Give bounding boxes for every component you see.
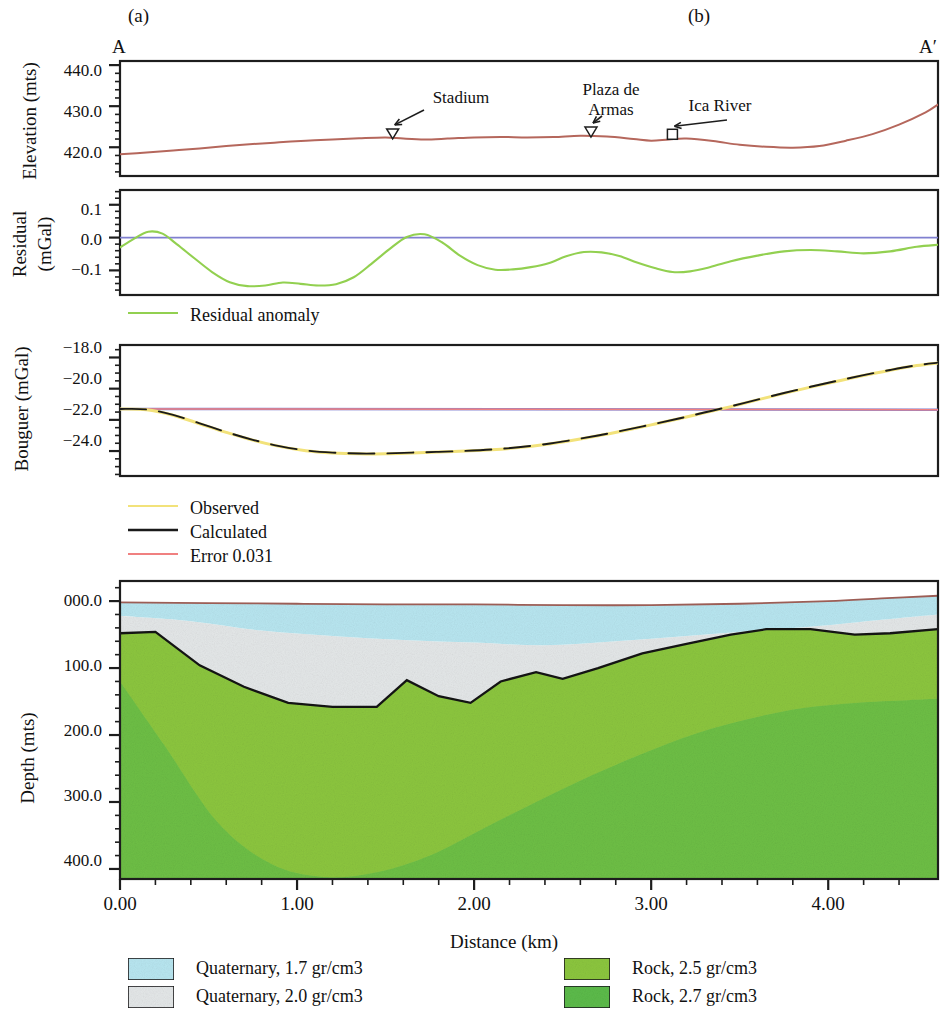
- bouguer-tick-neg18: −18.0: [28, 338, 102, 358]
- profile-end-label: A′: [919, 36, 937, 58]
- elevation-axis-label: Elevation (mts): [19, 46, 41, 196]
- xaxis-tick-2: 2.00: [444, 893, 504, 915]
- bouguer-legend-calculated-label: Calculated: [190, 522, 267, 543]
- gravity-profile-figure: [0, 0, 950, 1014]
- bouguer-legend-error-label: Error 0.031: [190, 546, 273, 567]
- subpanel-label-b: (b): [688, 5, 710, 27]
- annotation-leader-line: [395, 110, 424, 125]
- depth-tick-400: 400.0: [32, 851, 102, 871]
- bouguer-tick-neg24: −24.0: [28, 431, 102, 451]
- annotation-leader-line: [674, 120, 727, 126]
- topography-line: [120, 105, 938, 155]
- elevation-panel-frame: [109, 61, 938, 176]
- figure-root: (a) (b) A A′ 440.0 430.0 420.0 Elevation…: [0, 0, 950, 1014]
- depth-legend-swatch: [128, 958, 174, 980]
- depth-legend-rock25-label: Rock, 2.5 gr/cm3: [632, 958, 757, 979]
- bouguer-error-line: [120, 409, 938, 410]
- elevation-tick-420: 420.0: [40, 143, 102, 163]
- depth-tick-100: 100.0: [32, 656, 102, 676]
- elevation-tick-440: 440.0: [40, 61, 102, 81]
- annotation-label-ica-river: Ica River: [665, 96, 775, 116]
- xaxis-tick-0: 0.00: [90, 893, 150, 915]
- depth-tick-000: 000.0: [32, 591, 102, 611]
- bouguer-tick-neg20: −20.0: [28, 369, 102, 389]
- xaxis-label: Distance (km): [404, 931, 604, 953]
- annotation-label-plaza-line2: Armas: [556, 100, 666, 120]
- elevation-plot-area: [120, 105, 938, 155]
- residual-axis-label-2: (mGal): [34, 192, 56, 297]
- elevation-tick-430: 430.0: [40, 102, 102, 122]
- bouguer-axis-label: Bouguer (mGal): [11, 319, 33, 499]
- depth-legend-rock27-label: Rock, 2.7 gr/cm3: [632, 986, 757, 1007]
- depth-legend-quat20-label: Quaternary, 2.0 gr/cm3: [196, 986, 363, 1007]
- annotation-square-marker: [667, 129, 677, 139]
- bouguer-plot-area: [120, 363, 938, 454]
- annotation-label-stadium: Stadium: [406, 88, 516, 108]
- depth-legend-quat17-label: Quaternary, 1.7 gr/cm3: [196, 958, 363, 979]
- annotation-label-plaza-line1: Plaza de: [556, 80, 666, 100]
- residual-axis-label-1: Residual: [9, 192, 31, 297]
- depth-axis-label: Depth (mts): [17, 688, 39, 828]
- xaxis-tick-3: 3.00: [621, 893, 681, 915]
- residual-anomaly-line: [120, 231, 938, 286]
- bouguer-tick-neg22: −22.0: [28, 400, 102, 420]
- subpanel-label-a: (a): [128, 5, 149, 27]
- depth-legend-swatch: [564, 986, 610, 1008]
- xaxis-tick-1: 1.00: [267, 893, 327, 915]
- depth-legend-swatch: [564, 958, 610, 980]
- depth-model-layers: [120, 596, 938, 879]
- profile-start-label: A: [112, 36, 126, 58]
- depth-tick-200: 200.0: [32, 721, 102, 741]
- depth-tick-300: 300.0: [32, 786, 102, 806]
- bouguer-legend-observed-label: Observed: [190, 498, 259, 519]
- xaxis-tick-4: 4.00: [798, 893, 858, 915]
- residual-plot-area: [120, 231, 938, 286]
- residual-legend-label: Residual anomaly: [190, 305, 319, 326]
- residual-axes-frame: [120, 190, 938, 295]
- elevation-axes-frame: [120, 61, 938, 176]
- depth-legend-swatch: [128, 986, 174, 1008]
- residual-panel-frame: [109, 190, 938, 295]
